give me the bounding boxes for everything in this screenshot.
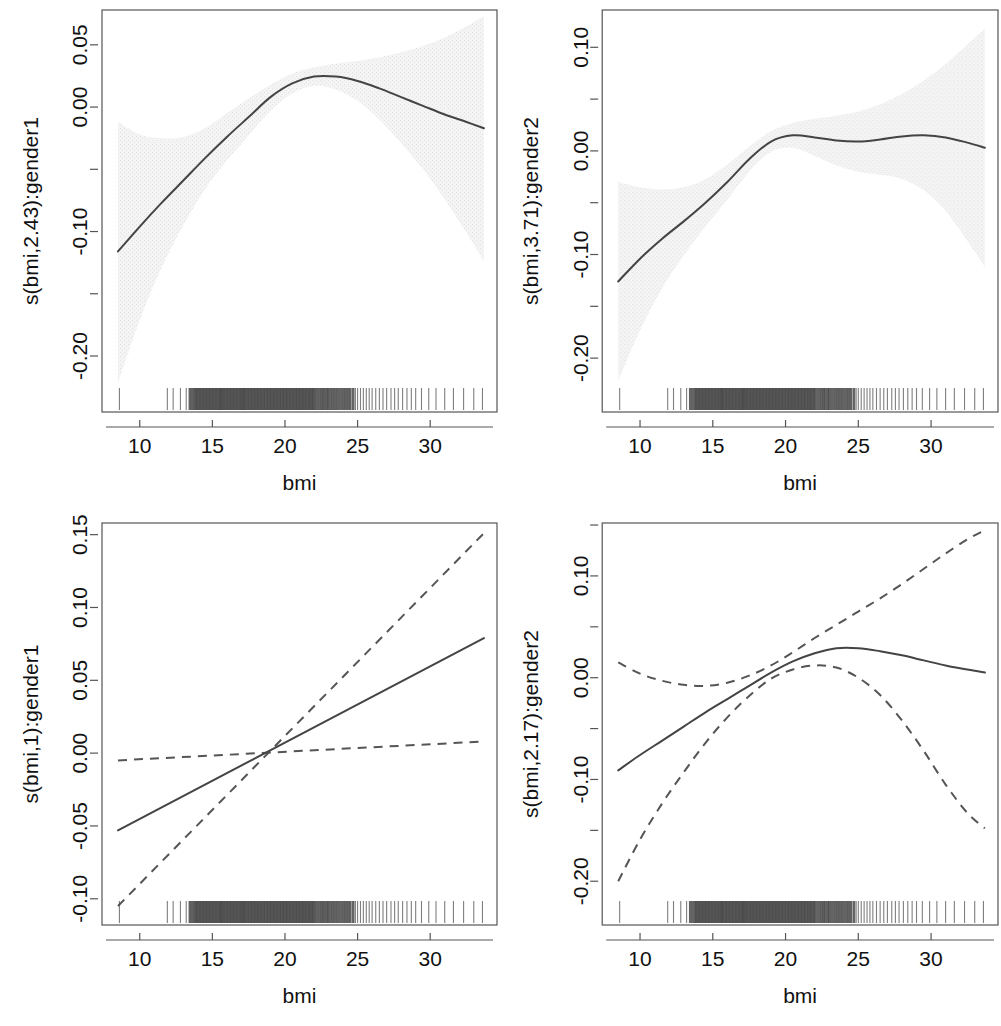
ci-lower-line: [118, 533, 484, 906]
ci-upper-line: [118, 741, 484, 760]
x-tick-label: 30: [419, 947, 442, 970]
y-tick-label: 0.00: [69, 733, 92, 774]
plot-frame: [602, 523, 998, 925]
y-tick-label: 0.15: [69, 514, 92, 555]
x-axis-title: bmi: [283, 984, 317, 1007]
x-tick-label: 30: [419, 434, 442, 457]
y-axis-title: s(bmi,2.43):gender1: [19, 117, 42, 305]
x-tick-label: 10: [128, 434, 151, 457]
plot-panel-top-right: 10152025300.100.00-0.10-0.20s(bmi,3.71):…: [500, 0, 1001, 513]
y-tick-label: 0.00: [69, 87, 92, 128]
plot-panel-top-left: 10152025300.050.00-0.10-0.20s(bmi,2.43):…: [0, 0, 500, 513]
y-tick-label: -0.10: [569, 231, 592, 279]
y-tick-label: -0.20: [569, 857, 592, 905]
x-tick-label: 20: [774, 434, 797, 457]
x-tick-label: 25: [346, 434, 369, 457]
x-tick-label: 30: [919, 947, 942, 970]
y-tick-label: 0.10: [569, 555, 592, 596]
x-tick-label: 15: [701, 434, 724, 457]
y-tick-label: -0.10: [569, 756, 592, 804]
fit-line: [118, 638, 484, 830]
y-tick-label: 0.05: [69, 660, 92, 701]
y-tick-label: 0.10: [569, 27, 592, 68]
y-tick-label: 0.05: [69, 24, 92, 65]
ci-band: [618, 29, 985, 381]
x-tick-label: 25: [847, 947, 870, 970]
rug-plot: [620, 388, 984, 410]
y-tick-label: -0.10: [69, 208, 92, 256]
x-tick-label: 15: [201, 947, 224, 970]
ci-band: [118, 16, 484, 383]
y-axis-title: s(bmi,1):gender1: [19, 645, 42, 804]
x-tick-label: 10: [628, 434, 651, 457]
y-tick-label: 0.00: [569, 657, 592, 698]
ci-lower-line: [618, 665, 985, 881]
x-axis-title: bmi: [783, 984, 817, 1007]
y-tick-label: -0.20: [569, 334, 592, 382]
plot-frame: [102, 523, 497, 925]
x-tick-label: 30: [919, 434, 942, 457]
plot-canvas-bottom-left: 10152025300.150.100.050.00-0.05-0.10s(bm…: [0, 513, 500, 1026]
y-axis-title: s(bmi,3.71):gender2: [519, 117, 542, 305]
rug-plot: [119, 388, 482, 410]
x-tick-label: 10: [628, 947, 651, 970]
x-axis-title: bmi: [783, 471, 817, 494]
x-tick-label: 20: [273, 434, 296, 457]
plot-canvas-bottom-right: 10152025300.100.00-0.10-0.20s(bmi,2.17):…: [500, 513, 1001, 1026]
x-tick-label: 20: [774, 947, 797, 970]
plot-panel-bottom-left: 10152025300.150.100.050.00-0.05-0.10s(bm…: [0, 513, 500, 1026]
fit-line: [618, 648, 985, 771]
x-tick-label: 10: [128, 947, 151, 970]
y-axis-title: s(bmi,2.17):gender2: [519, 630, 542, 818]
y-tick-label: -0.20: [69, 332, 92, 380]
rug-plot: [119, 901, 482, 923]
y-tick-label: -0.10: [69, 875, 92, 923]
x-tick-label: 15: [201, 434, 224, 457]
plot-canvas-top-left: 10152025300.050.00-0.10-0.20s(bmi,2.43):…: [0, 0, 500, 513]
x-tick-label: 25: [346, 947, 369, 970]
y-tick-label: 0.00: [569, 130, 592, 171]
figure-panel-grid: 10152025300.050.00-0.10-0.20s(bmi,2.43):…: [0, 0, 1001, 1026]
x-tick-label: 15: [701, 947, 724, 970]
plot-canvas-top-right: 10152025300.100.00-0.10-0.20s(bmi,3.71):…: [500, 0, 1001, 513]
x-tick-label: 25: [847, 434, 870, 457]
y-tick-label: -0.05: [69, 802, 92, 850]
x-axis-title: bmi: [283, 471, 317, 494]
x-tick-label: 20: [273, 947, 296, 970]
plot-panel-bottom-right: 10152025300.100.00-0.10-0.20s(bmi,2.17):…: [500, 513, 1001, 1026]
rug-plot: [620, 901, 984, 923]
y-tick-label: 0.10: [69, 587, 92, 628]
